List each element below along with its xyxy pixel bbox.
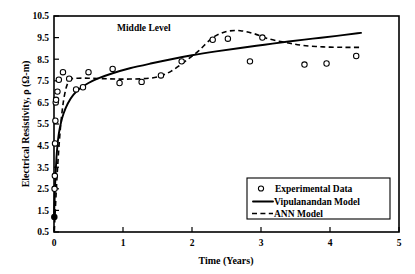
legend-marker-experimental-data-icon xyxy=(258,186,263,191)
y-tick-label: 7.5 xyxy=(37,76,49,86)
y-tick-label: 10.5 xyxy=(32,11,49,21)
data-point-marker xyxy=(354,53,359,58)
y-tick-label: 6.5 xyxy=(37,98,49,108)
y-tick-label: 1.5 xyxy=(37,206,49,216)
y-axis-title: Electrical Resistivity, ρ (Ω-m) xyxy=(20,61,32,188)
data-point-marker xyxy=(225,36,230,41)
data-point-marker xyxy=(179,59,184,64)
data-point-marker xyxy=(52,173,57,178)
resistivity-vs-time-chart: 0.51.52.53.54.55.56.57.58.59.510.5 01234… xyxy=(0,0,415,274)
x-axis-title: Time (Years) xyxy=(198,255,253,267)
legend-label-ann-model: ANN Model xyxy=(274,209,323,219)
data-point-marker xyxy=(56,77,61,82)
data-point-marker xyxy=(117,80,122,85)
x-tick-label: 5 xyxy=(397,238,402,248)
data-point-marker xyxy=(158,73,163,78)
data-point-marker xyxy=(60,69,65,74)
y-tick-label: 4.5 xyxy=(37,141,49,151)
y-tick-label: 0.5 xyxy=(37,227,49,237)
middle-level-annotation: Middle Level xyxy=(117,23,171,33)
x-tick-label: 0 xyxy=(52,238,57,248)
data-point-marker xyxy=(110,66,115,71)
data-point-marker xyxy=(139,79,144,84)
data-point-marker xyxy=(80,85,85,90)
data-point-marker xyxy=(324,61,329,66)
data-point-marker xyxy=(302,62,307,67)
data-point-marker xyxy=(73,87,78,92)
x-tick-label: 4 xyxy=(328,238,333,248)
y-tick-label: 3.5 xyxy=(37,163,49,173)
y-tick-label: 8.5 xyxy=(37,55,49,65)
data-point-marker xyxy=(210,37,215,42)
data-point-marker xyxy=(247,59,252,64)
legend-label-vipulanandan-model: Vipulanandan Model xyxy=(274,197,360,207)
data-point-marker xyxy=(52,214,57,219)
chart-legend: Experimental Data Vipulanandan Model ANN… xyxy=(247,178,390,219)
data-point-marker xyxy=(53,118,58,123)
x-tick-label: 2 xyxy=(190,238,195,248)
data-point-marker xyxy=(66,76,71,81)
data-point-marker xyxy=(55,89,60,94)
data-point-marker xyxy=(52,186,57,191)
y-tick-label: 9.5 xyxy=(37,33,49,43)
data-point-marker xyxy=(53,97,58,102)
legend-label-experimental-data: Experimental Data xyxy=(275,184,353,194)
x-tick-label: 1 xyxy=(121,238,126,248)
data-point-marker xyxy=(52,141,57,146)
y-tick-label: 5.5 xyxy=(37,119,49,129)
data-point-marker xyxy=(260,35,265,40)
y-tick-label: 2.5 xyxy=(37,184,49,194)
x-tick-label: 3 xyxy=(259,238,264,248)
data-point-marker xyxy=(86,69,91,74)
